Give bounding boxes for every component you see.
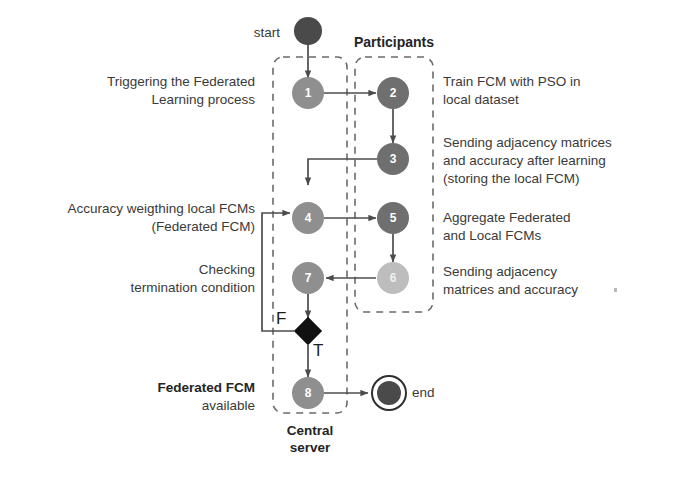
annotation-node-2: Train FCM with PSO in local dataset (443, 73, 663, 109)
node-6[interactable] (377, 262, 409, 294)
annotation-node-5: Aggregate Federated and Local FCMs (443, 209, 663, 245)
end-node[interactable] (377, 381, 401, 405)
node-8[interactable] (292, 377, 324, 409)
annotation-node-4: Accuracy weigthing local FCMs (Federated… (22, 200, 255, 236)
node-3[interactable] (377, 143, 409, 175)
diagram-canvas: 1 2 3 4 5 6 7 8 start end Participants C… (0, 0, 683, 489)
decision-true-label: T (313, 341, 323, 361)
start-node[interactable] (294, 17, 322, 45)
node-5[interactable] (377, 202, 409, 234)
annotation-node-8-plain: available (60, 397, 255, 415)
start-label: start (228, 24, 280, 42)
node-4[interactable] (292, 202, 324, 234)
node-1[interactable] (292, 77, 324, 109)
decision-false-label: F (276, 309, 286, 329)
swimlane-box-central (273, 57, 347, 413)
end-label: end (412, 384, 472, 402)
edge-3-to-4 (308, 159, 377, 185)
annotation-node-3: Sending adjacency matrices and accuracy … (443, 134, 671, 188)
node-7[interactable] (292, 262, 324, 294)
scan-artifact-speck (614, 288, 617, 292)
swimlane-title-central-line1: Central (262, 422, 358, 440)
annotation-node-7: Checking termination condition (60, 261, 255, 297)
annotation-node-8-bold: Federated FCM (60, 379, 255, 397)
annotation-node-1: Triggering the Federated Learning proces… (40, 73, 255, 109)
swimlane-title-central-line2: server (262, 439, 358, 457)
node-2[interactable] (377, 77, 409, 109)
annotation-node-6: Sending adjacency matrices and accuracy (443, 263, 663, 299)
swimlane-title-participants: Participants (340, 33, 448, 51)
